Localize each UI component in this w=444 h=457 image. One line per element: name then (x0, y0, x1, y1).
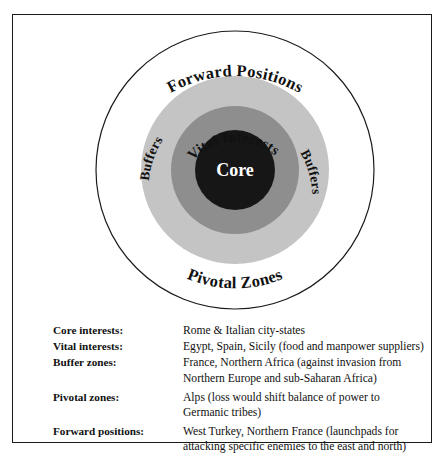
legend-desc-vital-interests: Egypt, Spain, Sicily (food and manpower … (183, 339, 425, 354)
legend-desc-line: Alps (loss would shift balance of power … (183, 390, 425, 405)
legend-term-pivotal-zones: Pivotal zones: (53, 390, 183, 405)
legend-term-core-interests: Core interests: (53, 323, 183, 338)
legend-table: Core interests: Rome & Italian city-stat… (53, 323, 425, 456)
legend-desc-line: Rome & Italian city-states (183, 323, 425, 338)
legend-desc-line: Egypt, Spain, Sicily (food and manpower … (183, 339, 425, 354)
legend-term-forward-positions: Forward positions: (53, 424, 183, 439)
legend-row: Core interests: Rome & Italian city-stat… (53, 323, 425, 338)
legend-desc-buffer-zones: France, Northern Africa (against invasio… (183, 355, 425, 385)
legend-desc-forward-positions: West Turkey, Northern France (launchpads… (183, 424, 425, 454)
legend-row: Vital interests: Egypt, Spain, Sicily (f… (53, 339, 425, 354)
legend-row: Pivotal zones: Alps (loss would shift ba… (53, 390, 425, 420)
legend-desc-line: Northern Europe and sub-Saharan Africa) (183, 371, 425, 386)
legend-desc-line: France, Northern Africa (against invasio… (183, 355, 425, 370)
legend-term-buffer-zones: Buffer zones: (53, 355, 183, 370)
legend-desc-line: West Turkey, Northern France (launchpads… (183, 424, 425, 439)
legend-desc-line: Germanic tribes) (183, 405, 425, 420)
legend-row: Buffer zones: France, Northern Africa (a… (53, 355, 425, 385)
core-label: Core (216, 160, 254, 180)
legend-desc-pivotal-zones: Alps (loss would shift balance of power … (183, 390, 425, 420)
figure-frame: Forward Positions Pivotal Zones Buffers … (12, 14, 432, 443)
legend-row: Forward positions: West Turkey, Northern… (53, 424, 425, 454)
legend-term-vital-interests: Vital interests: (53, 339, 183, 354)
legend-desc-core-interests: Rome & Italian city-states (183, 323, 425, 338)
legend-desc-line: attacking specific enemies to the east a… (183, 439, 425, 454)
concentric-circles-diagram: Forward Positions Pivotal Zones Buffers … (13, 15, 444, 315)
